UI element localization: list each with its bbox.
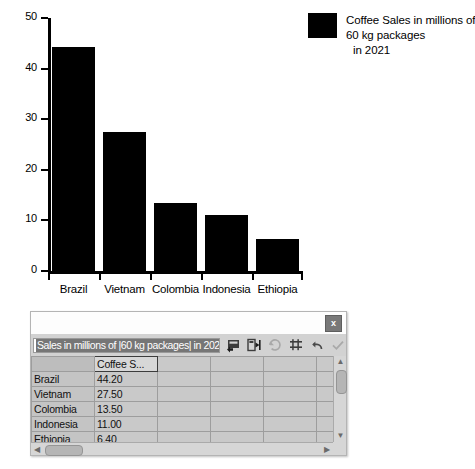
y-axis-tick: 40 (41, 68, 48, 70)
y-axis-tick-label: 30 (25, 110, 37, 124)
legend-label: Coffee Sales in millions of 60 kg packag… (346, 13, 475, 58)
table-cell-value[interactable]: 27.50 (95, 387, 158, 402)
x-axis-tick (252, 274, 254, 280)
scroll-down-icon[interactable]: ▼ (334, 430, 347, 442)
row-header-cell[interactable]: Brazil (32, 372, 95, 387)
row-header-cell[interactable]: Vietnam (32, 387, 95, 402)
column-header-cell-empty[interactable] (158, 357, 211, 372)
table-cell-empty[interactable] (317, 372, 334, 387)
delete-row-icon (267, 337, 283, 353)
row-header-cell[interactable]: Indonesia (32, 417, 95, 432)
data-grid-viewport: Coffee S...Brazil44.20Vietnam27.50Colomb… (31, 356, 333, 442)
row-header-cell[interactable]: Ethiopia (32, 432, 95, 443)
confirm-check-icon (330, 337, 346, 353)
vertical-scrollbar-thumb[interactable] (336, 370, 347, 394)
table-cell-empty[interactable] (211, 387, 264, 402)
vertical-scrollbar[interactable]: ▲ ▼ (333, 356, 346, 442)
table-cell-empty[interactable] (158, 402, 211, 417)
y-axis-tick: 0 (41, 270, 48, 272)
bar-series (48, 18, 303, 271)
table-corner-cell[interactable] (32, 357, 95, 372)
table-cell-empty[interactable] (211, 402, 264, 417)
y-axis-tick-label: 0 (31, 262, 37, 276)
table-row: Ethiopia6.40 (32, 432, 334, 443)
plot-area: 01020304050 BrazilVietnamColombiaIndones… (48, 18, 303, 274)
data-table-titlebar[interactable]: x (31, 312, 346, 335)
table-row: Vietnam27.50 (32, 387, 334, 402)
y-axis-tick-label: 10 (25, 211, 37, 225)
table-cell-value[interactable]: 11.00 (95, 417, 158, 432)
y-axis-tick: 30 (41, 118, 48, 120)
bar (52, 47, 96, 271)
x-axis-tick (201, 274, 203, 280)
data-table[interactable]: Coffee S...Brazil44.20Vietnam27.50Colomb… (31, 356, 333, 442)
undo-icon[interactable] (309, 337, 325, 353)
x-axis-tick (48, 274, 50, 280)
scroll-up-icon[interactable]: ▲ (334, 356, 347, 368)
scroll-left-icon[interactable]: ◀ (31, 443, 43, 456)
y-axis-tick: 20 (41, 169, 48, 171)
table-cell-empty[interactable] (211, 372, 264, 387)
column-header-cell-empty[interactable] (317, 357, 334, 372)
table-cell-empty[interactable] (264, 387, 317, 402)
table-cell-empty[interactable] (264, 432, 317, 443)
table-cell-empty[interactable] (158, 372, 211, 387)
y-axis-tick-label: 50 (25, 9, 37, 23)
x-axis-tick (301, 274, 303, 280)
data-grid-area: Coffee S...Brazil44.20Vietnam27.50Colomb… (31, 356, 346, 455)
horizontal-scrollbar-thumb[interactable] (45, 445, 83, 456)
x-axis-tick (99, 274, 101, 280)
legend-label-line-1: Coffee Sales in millions of (346, 13, 475, 28)
table-cell-value[interactable]: 13.50 (95, 402, 158, 417)
bar (205, 215, 249, 271)
table-row: Colombia13.50 (32, 402, 334, 417)
legend-label-line-2: 60 kg packages (346, 28, 475, 43)
scrollbar-corner (333, 442, 346, 455)
x-axis-label: Indonesia (201, 282, 252, 296)
x-axis-label: Colombia (150, 282, 201, 296)
table-cell-empty[interactable] (211, 417, 264, 432)
chart-area: 01020304050 BrazilVietnamColombiaIndones… (0, 0, 473, 300)
table-cell-empty[interactable] (158, 387, 211, 402)
row-header-cell[interactable]: Colombia (32, 402, 95, 417)
delete-column-icon[interactable] (288, 337, 304, 353)
x-axis-label: Vietnam (99, 282, 150, 296)
table-row: Indonesia11.00 (32, 417, 334, 432)
table-row: Brazil44.20 (32, 372, 334, 387)
x-axis-line (48, 271, 303, 274)
table-cell-empty[interactable] (158, 432, 211, 443)
y-axis-tick: 10 (41, 219, 48, 221)
data-table-window: x Sales in millions of |60 kg packages| … (30, 311, 347, 456)
table-cell-empty[interactable] (264, 417, 317, 432)
table-cell-empty[interactable] (317, 417, 334, 432)
range-input-value: Sales in millions of |60 kg packages| in… (36, 339, 220, 352)
table-cell-empty[interactable] (317, 402, 334, 417)
y-axis-tick-label: 20 (25, 161, 37, 175)
bar (154, 203, 198, 271)
table-cell-empty[interactable] (264, 402, 317, 417)
range-input[interactable]: Sales in millions of |60 kg packages| in… (33, 338, 220, 353)
table-cell-empty[interactable] (158, 417, 211, 432)
table-header-row: Coffee S... (32, 357, 334, 372)
y-axis-tick-label: 40 (25, 60, 37, 74)
insert-column-icon[interactable] (246, 337, 262, 353)
legend-label-line-3: in 2021 (346, 43, 475, 58)
x-axis-label: Ethiopia (252, 282, 303, 296)
x-axis-tick (150, 274, 152, 280)
horizontal-scrollbar[interactable]: ◀ ▶ (31, 442, 333, 455)
table-cell-value[interactable]: 44.20 (95, 372, 158, 387)
y-axis-tick: 50 (41, 17, 48, 19)
toolbar-icon-group (225, 337, 346, 353)
column-header-cell[interactable]: Coffee S... (95, 357, 158, 372)
table-cell-empty[interactable] (211, 432, 264, 443)
table-cell-value[interactable]: 6.40 (95, 432, 158, 443)
insert-row-icon[interactable] (225, 337, 241, 353)
scroll-right-icon[interactable]: ▶ (321, 443, 333, 456)
close-icon[interactable]: x (325, 315, 342, 332)
x-axis-label: Brazil (48, 282, 99, 296)
column-header-cell-empty[interactable] (264, 357, 317, 372)
table-cell-empty[interactable] (317, 432, 334, 443)
table-cell-empty[interactable] (317, 387, 334, 402)
column-header-cell-empty[interactable] (211, 357, 264, 372)
table-cell-empty[interactable] (264, 372, 317, 387)
